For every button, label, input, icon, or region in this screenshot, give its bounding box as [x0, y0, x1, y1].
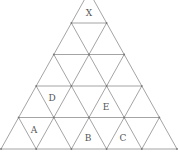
label-d: D — [48, 93, 55, 103]
vertex-dot — [141, 85, 143, 87]
label-x: X — [86, 8, 93, 18]
grid-line — [71, 55, 124, 150]
vertex-dot — [141, 148, 143, 150]
vertex-dot — [106, 22, 108, 24]
vertex-dot — [123, 117, 125, 119]
label-b: B — [85, 133, 92, 143]
grid-lines — [1, 0, 177, 149]
vertex-dot — [123, 54, 125, 56]
label-a: A — [30, 125, 38, 135]
vertex-dot — [53, 117, 55, 119]
vertex-dot — [71, 85, 73, 87]
triangle-grid-diagram: X D E A B C — [0, 0, 179, 153]
vertex-dot — [176, 148, 178, 150]
vertex-dot — [71, 22, 73, 24]
vertex-dot — [106, 85, 108, 87]
vertex-dot — [18, 117, 20, 119]
vertex-dot — [106, 148, 108, 150]
vertex-dot — [35, 148, 37, 150]
label-c: C — [120, 133, 127, 143]
grid-line — [89, 0, 177, 149]
label-e: E — [103, 102, 110, 112]
vertex-dot — [88, 54, 90, 56]
vertex-dot — [35, 85, 37, 87]
grid-line — [54, 55, 107, 150]
grid-line — [1, 0, 89, 149]
vertex-dot — [88, 117, 90, 119]
grid-line — [142, 118, 160, 150]
vertex-dot — [159, 117, 161, 119]
vertex-dot — [53, 54, 55, 56]
vertex-dot — [71, 148, 73, 150]
vertex-dot — [0, 148, 2, 150]
